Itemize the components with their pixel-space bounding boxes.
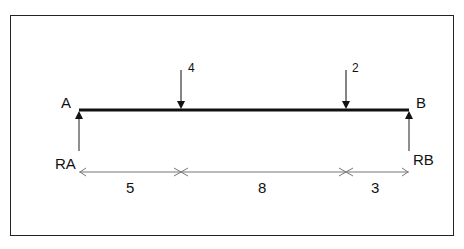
load-1-label: 4 — [188, 62, 195, 74]
load-4-arrow-icon — [177, 70, 185, 109]
beam-diagram — [0, 0, 464, 249]
dimension-3-label: 3 — [371, 180, 379, 195]
point-a-label: A — [61, 95, 71, 110]
dimension-1-label: 5 — [126, 180, 134, 195]
reaction-a-label: RA — [55, 156, 76, 171]
load-2-label: 2 — [352, 62, 359, 74]
dimension-line — [79, 168, 409, 176]
load-2-arrow-icon — [342, 70, 350, 109]
dimension-2-label: 8 — [258, 180, 266, 195]
point-b-label: B — [416, 95, 426, 110]
reaction-a-arrow-icon — [75, 111, 83, 151]
reaction-b-arrow-icon — [405, 111, 413, 151]
reaction-b-label: RB — [413, 152, 434, 167]
